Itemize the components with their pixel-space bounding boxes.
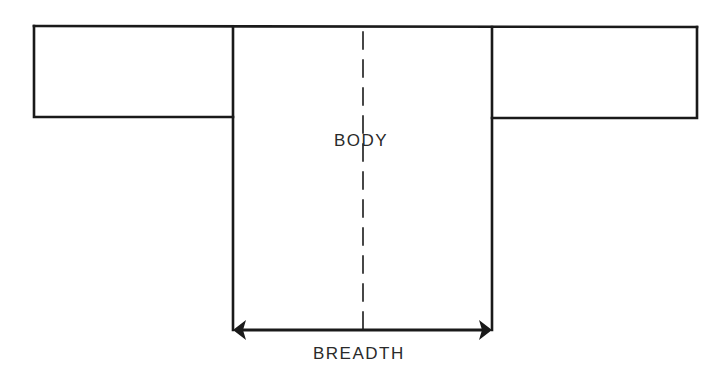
top-edge [34, 26, 697, 27]
garment-diagram [0, 0, 721, 384]
right-sleeve [492, 27, 697, 118]
breadth-label: BREADTH [313, 344, 405, 364]
body-label: BODY [334, 131, 388, 151]
left-sleeve [34, 26, 233, 117]
